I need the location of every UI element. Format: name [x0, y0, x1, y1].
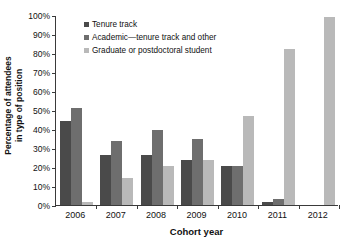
- x-axis-tick-label: 2009: [186, 210, 206, 220]
- legend-item: Academic—tenure track and other: [84, 33, 216, 42]
- legend-label: Academic—tenure track and other: [92, 33, 216, 42]
- x-axis-tick-label: 2010: [227, 210, 247, 220]
- legend-item: Tenure track: [84, 20, 216, 29]
- x-axis-tick-label: 2008: [146, 210, 166, 220]
- y-axis-tick-labels: 0%10%20%30%40%50%60%70%80%90%100%: [22, 0, 50, 251]
- y-axis-tick-label: 70%: [24, 68, 50, 78]
- x-axis-tick-mark: [339, 205, 340, 209]
- legend-swatch-icon: [84, 48, 89, 53]
- y-axis-tick-label: 20%: [24, 163, 50, 173]
- y-axis-tick-label: 60%: [24, 87, 50, 97]
- legend-item: Graduate or postdoctoral student: [84, 46, 216, 55]
- legend-swatch-icon: [84, 22, 89, 27]
- y-axis-tick-label: 10%: [24, 182, 50, 192]
- y-axis-tick-label: 0%: [24, 201, 50, 211]
- y-axis-tick-label: 100%: [24, 11, 50, 21]
- x-axis-tick-label: 2012: [308, 210, 328, 220]
- y-axis-tick-label: 40%: [24, 125, 50, 135]
- x-axis-tick-label: 2011: [268, 210, 287, 220]
- y-axis-tick-label: 90%: [24, 30, 50, 40]
- legend-swatch-icon: [84, 35, 89, 40]
- chart-legend: Tenure trackAcademic—tenure track and ot…: [84, 20, 216, 55]
- x-axis-tick-label: 2006: [65, 210, 85, 220]
- x-axis-tick-label: 2007: [106, 210, 126, 220]
- y-axis-tick-label: 50%: [24, 106, 50, 116]
- bar-chart: Percentage of attendees in type of posit…: [0, 0, 347, 251]
- y-axis-title-line1: Percentage of attendees: [3, 56, 13, 154]
- legend-label: Graduate or postdoctoral student: [92, 46, 212, 55]
- y-axis-tick-label: 30%: [24, 144, 50, 154]
- x-axis-title: Cohort year: [55, 226, 338, 237]
- y-axis-tick-label: 80%: [24, 49, 50, 59]
- legend-label: Tenure track: [92, 20, 137, 29]
